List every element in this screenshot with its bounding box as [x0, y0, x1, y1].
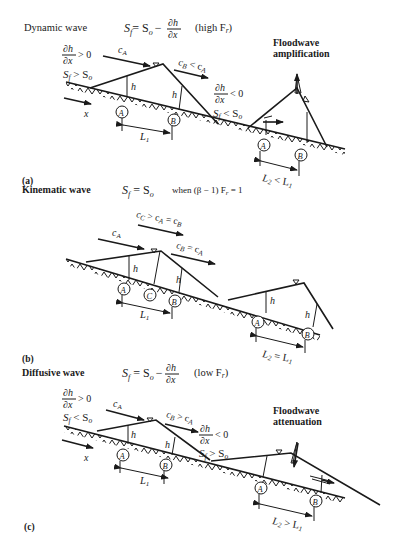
svg-text:(low Fr): (low Fr)	[194, 367, 229, 380]
svg-text:L1: L1	[139, 309, 149, 322]
svg-text:B: B	[305, 330, 310, 340]
svg-text:Sf = So−: Sf = So−	[122, 366, 163, 382]
svg-text:A: A	[254, 318, 261, 328]
panel-b-length-l1	[123, 303, 170, 313]
svg-text:cB > cA: cB > cA	[165, 409, 195, 427]
svg-text:L2 = L1: L2 = L1	[260, 348, 293, 366]
panel-c-diffusive-wave: Diffusive wave Sf = So− ∂h ∂x (low Fr) ∂…	[22, 362, 380, 533]
panel-b-wave-2	[228, 283, 333, 329]
panel-c-title: Diffusive wave	[22, 367, 85, 378]
svg-text:Sf = So: Sf = So	[122, 183, 154, 199]
panel-a-arrow-ca	[103, 56, 150, 66]
svg-text:B: B	[171, 116, 176, 126]
svg-text:∂h: ∂h	[63, 387, 73, 398]
panel-b-arrow-cb	[171, 254, 215, 264]
svg-text:cA: cA	[113, 398, 122, 411]
svg-text:L2 < L1: L2 < L1	[260, 172, 293, 190]
svg-text:when (β − 1) Fr = 1: when (β − 1) Fr = 1	[172, 185, 242, 197]
panel-b-kinematic-wave: Kinematic wave Sf = So when (β − 1) Fr =…	[22, 183, 333, 366]
svg-text:h: h	[131, 81, 136, 92]
floodwave-diagram: Dynamic wave Sf= So− ∂h ∂x (high Fr) ∂h …	[0, 0, 395, 548]
svg-text:A: A	[119, 451, 126, 461]
panel-c-annotation: Floodwave	[273, 405, 320, 416]
svg-text:amplification: amplification	[273, 48, 330, 59]
svg-text:B: B	[298, 151, 303, 161]
panel-c-arrow-ca	[106, 410, 144, 420]
panel-a-upstream-condition: ∂h ∂x > 0 Sf > So	[62, 43, 92, 82]
svg-text:A: A	[118, 108, 125, 118]
panel-b-length-l2	[257, 336, 303, 347]
svg-text:∂x: ∂x	[63, 399, 73, 410]
svg-text:Sf > So: Sf > So	[63, 68, 92, 82]
panel-a-title: Dynamic wave	[24, 22, 88, 33]
svg-text:x: x	[83, 108, 89, 119]
panel-c-downstream-condition: ∂h ∂x < 0 Sf > So	[199, 423, 228, 461]
svg-text:< 0: < 0	[230, 88, 243, 99]
svg-text:∂h: ∂h	[215, 82, 225, 93]
svg-text:> 0: > 0	[78, 49, 91, 60]
svg-text:< 0: < 0	[215, 429, 228, 440]
svg-text:∂x: ∂x	[200, 435, 210, 446]
svg-text:x: x	[83, 452, 89, 463]
svg-text:h: h	[176, 274, 181, 285]
water-surface-marker-icon	[293, 280, 299, 284]
svg-text:L2 > L1: L2 > L1	[270, 515, 303, 533]
svg-text:∂x: ∂x	[215, 94, 225, 105]
svg-text:A: A	[257, 484, 264, 494]
svg-text:h: h	[133, 263, 138, 274]
svg-text:cB = cA: cB = cA	[175, 240, 205, 258]
panel-c-length-l2	[260, 504, 312, 516]
svg-text:h: h	[305, 309, 310, 320]
svg-text:A: A	[260, 141, 267, 151]
svg-text:B: B	[163, 461, 168, 471]
svg-text:∂h: ∂h	[168, 17, 178, 28]
svg-text:h: h	[131, 429, 136, 440]
svg-text:> 0: > 0	[78, 393, 91, 404]
panel-c-upstream-condition: ∂h ∂x > 0 Sf < So	[62, 387, 92, 425]
panel-a-annotation: Floodwave	[273, 37, 320, 48]
svg-text:∂x: ∂x	[63, 55, 73, 66]
svg-text:h: h	[165, 439, 170, 450]
svg-text:∂h: ∂h	[200, 423, 210, 434]
svg-text:attenuation: attenuation	[273, 416, 322, 427]
svg-text:L1: L1	[139, 131, 149, 144]
svg-text:L1: L1	[139, 475, 149, 488]
svg-text:(high Fr): (high Fr)	[195, 22, 233, 35]
svg-text:Sf < So: Sf < So	[63, 411, 92, 425]
panel-a-length-l1	[123, 125, 170, 133]
svg-text:C: C	[147, 291, 153, 301]
panel-b-title: Kinematic wave	[22, 184, 91, 195]
svg-text:cA: cA	[118, 44, 127, 57]
svg-text:Sf= So−: Sf= So−	[124, 21, 162, 37]
svg-text:h: h	[270, 295, 275, 306]
svg-text:B: B	[313, 497, 318, 507]
svg-text:∂h: ∂h	[166, 362, 176, 373]
svg-text:∂x: ∂x	[168, 29, 178, 40]
svg-text:h: h	[172, 89, 177, 100]
panel-a-downstream-condition: ∂h ∂x < 0 Sf < So	[213, 82, 243, 121]
svg-text:A: A	[120, 285, 127, 295]
svg-text:B: B	[172, 297, 177, 307]
panel-a-length-l2	[261, 161, 297, 170]
panel-a-bed-hatching	[66, 82, 345, 155]
panel-c-label: (c)	[24, 522, 35, 533]
panel-a-dynamic-wave: Dynamic wave Sf= So− ∂h ∂x (high Fr) ∂h …	[22, 17, 345, 190]
svg-text:∂x: ∂x	[166, 374, 176, 385]
panel-a-x-axis-arrow	[64, 98, 91, 104]
panel-c-equation: Sf = So− ∂h ∂x (low Fr)	[122, 362, 229, 385]
svg-text:cA: cA	[112, 227, 121, 240]
panel-a-equation: Sf= So− ∂h ∂x (high Fr)	[124, 17, 233, 40]
svg-text:∂h: ∂h	[63, 43, 73, 54]
panel-b-label: (b)	[22, 354, 34, 365]
water-surface-marker-icon	[303, 96, 309, 102]
svg-text:Sf < So: Sf < So	[213, 107, 242, 121]
panel-c-x-axis-arrow	[62, 440, 93, 448]
panel-b-arrow-ca	[98, 239, 144, 249]
